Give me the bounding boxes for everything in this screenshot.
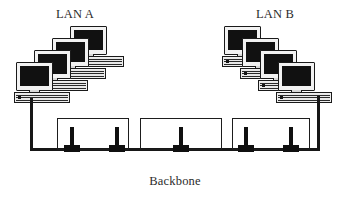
- lan-a-riser-cable: [30, 100, 33, 151]
- bus-tap-connector-icon: [283, 127, 299, 153]
- tap-foot: [238, 145, 254, 152]
- bus-tap-connector-icon: [64, 127, 80, 153]
- lan-a-workstation-cluster: [14, 26, 134, 106]
- monitor-bezel: [16, 62, 53, 91]
- tap-stem: [115, 127, 119, 147]
- computer-base: [276, 92, 332, 103]
- tap-stem: [244, 127, 248, 147]
- power-led-icon: [280, 96, 283, 99]
- workstation-icon: [276, 62, 332, 106]
- computer-base: [14, 92, 70, 103]
- tap-foot: [64, 145, 80, 152]
- keyboard-deck: [278, 94, 330, 101]
- tap-stem: [289, 127, 293, 147]
- lan-b-label: LAN B: [200, 7, 350, 22]
- bus-tap-connector-icon: [109, 127, 125, 153]
- lan-b-workstation-cluster: [222, 26, 342, 106]
- power-led-icon: [262, 84, 265, 87]
- backbone-label: Backbone: [0, 174, 350, 189]
- tap-foot: [173, 145, 189, 152]
- tap-stem: [179, 127, 183, 147]
- power-led-icon: [244, 72, 247, 75]
- bus-tap-connector-icon: [173, 127, 189, 153]
- tap-stem: [70, 127, 74, 147]
- tap-foot: [109, 145, 125, 152]
- lan-b-riser-cable: [317, 100, 320, 151]
- power-led-icon: [226, 60, 229, 63]
- workstation-icon: [14, 62, 70, 106]
- keyboard-deck: [16, 94, 68, 101]
- monitor-screen: [282, 66, 311, 86]
- power-led-icon: [18, 96, 21, 99]
- lan-a-label: LAN A: [0, 7, 150, 22]
- monitor-bezel: [278, 62, 315, 91]
- monitor-screen: [20, 66, 49, 86]
- tap-foot: [283, 145, 299, 152]
- network-diagram: LAN A LAN B Backbone: [0, 0, 350, 198]
- bus-tap-connector-icon: [238, 127, 254, 153]
